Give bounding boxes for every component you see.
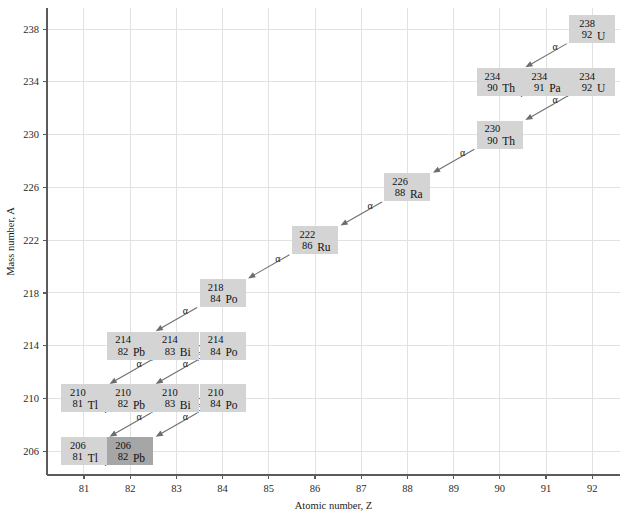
nuclide-atomic-number: 90 xyxy=(487,135,498,146)
alpha-decay-label: α xyxy=(137,358,143,369)
y-tick-label: 214 xyxy=(23,340,40,351)
nuclide-numbers: 21081 xyxy=(70,387,87,410)
nuclide-box-ra226: 22688Ra xyxy=(384,173,430,201)
nuclide-box-u238: 23892U xyxy=(569,15,615,43)
nuclide-numbers: 23491 xyxy=(531,71,548,94)
nuclide-mass-number: 238 xyxy=(579,18,595,29)
alpha-decay-label: α xyxy=(368,200,374,211)
nuclide-box-pb206: 20682Pb xyxy=(107,437,153,465)
x-tick-label: 81 xyxy=(79,483,90,494)
nuclide-mass-number: 230 xyxy=(485,123,501,134)
nuclide-box-po214: 21484Po xyxy=(200,332,246,360)
nuclide-atomic-number: 81 xyxy=(73,451,84,462)
y-tick-label: 230 xyxy=(23,129,39,140)
x-tick-label: 90 xyxy=(495,483,506,494)
nuclide-mass-number: 214 xyxy=(162,334,178,345)
nuclide-numbers: 22688 xyxy=(392,176,409,199)
nuclide-symbol: Tl xyxy=(87,453,98,466)
nuclide-mass-number: 218 xyxy=(208,282,224,293)
alpha-decay-label: α xyxy=(552,94,558,105)
nuclide-atomic-number: 83 xyxy=(165,398,176,409)
nuclide-symbol: Po xyxy=(224,400,237,413)
nuclide-mass-number: 214 xyxy=(115,334,131,345)
nuclide-symbol: Th xyxy=(501,136,515,149)
y-tick-label: 210 xyxy=(23,393,39,404)
nuclide-atomic-number: 86 xyxy=(302,240,313,251)
y-tick-label: 218 xyxy=(23,288,39,299)
x-tick-label: 86 xyxy=(310,483,321,494)
nuclide-symbol: Bi xyxy=(179,400,191,413)
x-tick-label: 88 xyxy=(402,483,413,494)
nuclide-symbol: U xyxy=(596,31,605,44)
alpha-decay-label: α xyxy=(275,253,281,264)
x-tick-label: 84 xyxy=(217,483,228,494)
nuclide-atomic-number: 84 xyxy=(210,293,221,304)
alpha-decay-label: α xyxy=(183,305,189,316)
alpha-decay-label: α xyxy=(137,411,143,422)
nuclide-mass-number: 206 xyxy=(115,440,131,451)
nuclide-box-tl210: 21081Tl xyxy=(61,384,107,412)
nuclide-numbers: 23892 xyxy=(579,18,596,41)
nuclide-box-rn222: 22286Ru xyxy=(292,226,338,254)
alpha-decay-label: α xyxy=(552,41,558,52)
nuclide-box-pa234: 23491Pa xyxy=(523,68,569,96)
nuclide-atomic-number: 82 xyxy=(118,346,129,357)
nuclide-symbol: Pb xyxy=(132,453,145,466)
x-tick-label: 89 xyxy=(448,483,459,494)
nuclide-mass-number: 206 xyxy=(70,440,86,451)
nuclide-atomic-number: 90 xyxy=(487,82,498,93)
nuclide-symbol: Po xyxy=(224,347,237,360)
nuclide-numbers: 20681 xyxy=(70,440,87,463)
y-axis-title: Mass number, A xyxy=(5,207,16,276)
nuclide-atomic-number: 83 xyxy=(165,346,176,357)
nuclide-numbers: 23490 xyxy=(485,71,502,94)
x-tick-label: 91 xyxy=(541,483,552,494)
alpha-decay-label: α xyxy=(183,358,189,369)
nuclide-mass-number: 234 xyxy=(579,71,595,82)
nuclide-atomic-number: 82 xyxy=(118,451,129,462)
nuclide-numbers: 21484 xyxy=(208,334,225,357)
nuclide-numbers: 21884 xyxy=(208,282,225,305)
nuclide-atomic-number: 88 xyxy=(395,187,406,198)
nuclide-numbers: 23090 xyxy=(485,123,502,146)
x-tick-label: 92 xyxy=(587,483,598,494)
nuclide-atomic-number: 84 xyxy=(210,398,221,409)
nuclide-mass-number: 210 xyxy=(115,387,131,398)
nuclide-numbers: 21082 xyxy=(115,387,132,410)
nuclide-symbol: Po xyxy=(224,294,237,307)
nuclide-atomic-number: 92 xyxy=(582,29,593,40)
nuclide-numbers: 23492 xyxy=(579,71,596,94)
nuclide-numbers: 21083 xyxy=(162,387,179,410)
x-tick-label: 82 xyxy=(125,483,136,494)
nuclide-symbol: Pa xyxy=(548,83,561,96)
nuclide-numbers: 21482 xyxy=(115,334,132,357)
y-tick-label: 226 xyxy=(23,182,39,193)
nuclide-atomic-number: 91 xyxy=(534,82,545,93)
nuclide-symbol: Bi xyxy=(179,347,191,360)
nuclide-box-u234: 23492U xyxy=(569,68,615,96)
nuclide-mass-number: 210 xyxy=(208,387,224,398)
nuclide-box-bi210: 21083Bi xyxy=(153,384,199,412)
y-tick-label: 206 xyxy=(23,446,39,457)
alpha-decay-label: α xyxy=(460,147,466,158)
y-tick-label: 238 xyxy=(23,24,39,35)
nuclide-symbol: U xyxy=(596,83,605,96)
nuclide-symbol: Th xyxy=(501,83,515,96)
nuclide-mass-number: 234 xyxy=(531,71,547,82)
nuclide-mass-number: 214 xyxy=(208,334,224,345)
nuclide-box-pb210: 21082Pb xyxy=(107,384,153,412)
nuclide-numbers: 21483 xyxy=(162,334,179,357)
nuclide-box-po210: 21084Po xyxy=(200,384,246,412)
nuclide-box-po218: 21884Po xyxy=(200,279,246,307)
x-tick-label: 85 xyxy=(264,483,275,494)
y-tick-label: 234 xyxy=(23,76,40,87)
nuclide-atomic-number: 84 xyxy=(210,346,221,357)
decay-chain-figure: αββαααααββααβββααβ 818283848586878889909… xyxy=(0,0,628,512)
nuclide-box-tl206: 20681Tl xyxy=(61,437,107,465)
nuclide-box-bi214: 21483Bi xyxy=(153,332,199,360)
nuclide-symbol: Pb xyxy=(132,400,145,413)
nuclide-mass-number: 210 xyxy=(70,387,86,398)
nuclide-atomic-number: 82 xyxy=(118,398,129,409)
nuclide-symbol: Tl xyxy=(87,400,98,413)
nuclide-numbers: 21084 xyxy=(208,387,225,410)
